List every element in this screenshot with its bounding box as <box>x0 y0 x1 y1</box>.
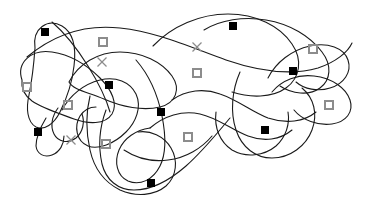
figure-canvas <box>0 0 366 205</box>
marker-filled-7 <box>289 67 297 75</box>
marker-filled-8 <box>261 126 269 134</box>
marker-filled-3 <box>34 128 42 136</box>
marker-filled-1 <box>41 28 49 36</box>
figure-background <box>0 0 366 205</box>
curve-diagram <box>0 0 366 205</box>
marker-filled-2 <box>105 81 113 89</box>
marker-filled-5 <box>229 22 237 30</box>
marker-filled-6 <box>157 108 165 116</box>
marker-filled-4 <box>147 179 155 187</box>
